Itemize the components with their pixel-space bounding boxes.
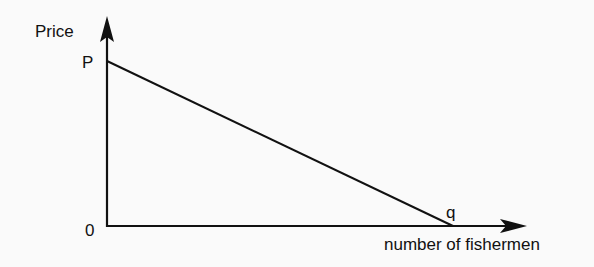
diagram-canvas: Price P 0 q number of fishermen [0,0,594,267]
price-line [107,61,453,226]
y-axis-label: Price [35,22,74,41]
x-intercept-label: q [446,203,455,222]
x-axis [106,219,527,233]
y-axis [100,16,114,227]
origin-label: 0 [85,221,94,240]
y-intercept-label: P [82,53,93,72]
x-axis-label: number of fishermen [384,235,540,254]
